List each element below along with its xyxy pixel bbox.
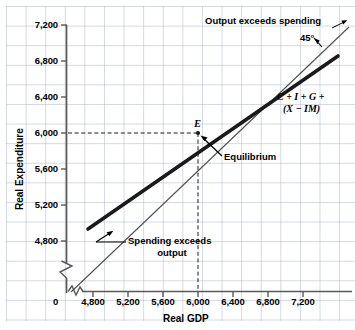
x-tick-label-4800: 4,800	[73, 297, 113, 308]
y-axis-title: Real Expenditure	[14, 128, 25, 210]
x-tick-label-5600: 5,600	[143, 297, 183, 308]
spending-exceeds-output-label-line2: output	[128, 248, 216, 259]
spending-exceeds-output-label-line1: Spending exceeds	[128, 236, 211, 247]
output-exceeds-spending-label: Output exceeds spending	[205, 16, 321, 27]
y-axis-break-icon	[60, 261, 72, 278]
forty-five-degree-label: 45°	[300, 33, 314, 44]
spending-exceeds-output-leader	[96, 231, 126, 242]
equilibrium-point-label: E	[194, 118, 201, 130]
origin-label: 0	[53, 297, 58, 308]
y-tick-label-6800: 6,800	[12, 56, 58, 67]
y-tick-label-7200: 7,200	[12, 20, 58, 31]
output-exceeds-spending-leader	[332, 20, 347, 28]
y-tick-label-6400: 6,400	[12, 92, 58, 103]
y-tick-label-4800: 4,800	[12, 236, 58, 247]
equilibrium-point-marker	[196, 131, 200, 135]
expenditure-equilibrium-chart: 7,200 6,800 6,400 6,000 5,600 5,200 4,80…	[0, 0, 355, 330]
forty-five-degree-arrow	[314, 38, 322, 47]
x-tick-label-7200: 7,200	[283, 297, 323, 308]
aggregate-expenditure-line	[88, 56, 338, 229]
x-axis-title: Real GDP	[163, 313, 209, 324]
expenditure-curve-label-line2: (X − IM)	[283, 103, 320, 114]
equilibrium-callout-label: Equilibrium	[224, 152, 276, 163]
x-tick-label-5200: 5,200	[108, 297, 148, 308]
x-tick-label-6400: 6,400	[213, 297, 253, 308]
expenditure-curve-label-line1: C + I + G +	[277, 91, 324, 102]
x-tick-label-6000: 6,000	[178, 297, 218, 308]
x-tick-label-6800: 6,800	[248, 297, 288, 308]
